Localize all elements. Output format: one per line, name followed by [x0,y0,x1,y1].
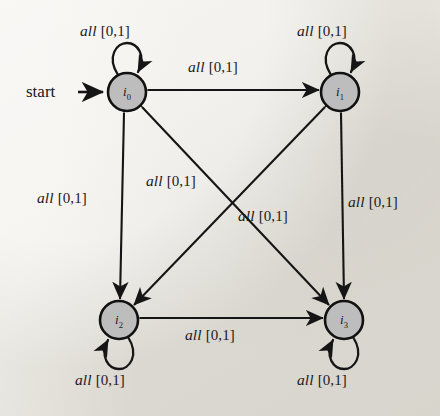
state-machine-diagram: i0 i1 i2 i3 start all [0,1] all [0,1] al… [0,0,440,416]
state-label-i0: i0 [123,84,131,102]
edge-label-i0-i1: all [0,1] [188,58,238,76]
transition-i1-i2[interactable] [134,107,325,305]
self-loop-i1[interactable] [326,43,355,75]
transition-i0-i3[interactable] [142,107,329,305]
edge-label-self-i0: all [0,1] [80,22,130,40]
edge-label-i1-i3: all [0,1] [348,193,398,211]
edge-label-self-i3: all [0,1] [297,371,347,389]
state-label-i2: i2 [115,312,123,330]
self-loop-i0[interactable] [113,43,142,75]
self-loop-i3[interactable] [329,337,358,369]
edge-label-self-i2: all [0,1] [75,371,125,389]
edge-label-i0-i2: all [0,1] [37,189,87,207]
transition-i1-i3[interactable] [341,113,344,299]
edge-label-i2-i3: all [0,1] [185,326,235,344]
state-label-i3: i3 [340,312,348,330]
transition-i0-i2[interactable] [120,113,124,299]
edge-label-self-i1: all [0,1] [297,22,347,40]
edge-label-i0-i3: all [0,1] [238,207,288,225]
edge-label-i1-i2: all [0,1] [146,172,196,190]
start-label: start [26,82,55,102]
state-label-i1: i1 [336,84,344,102]
self-loop-i2[interactable] [104,337,133,369]
